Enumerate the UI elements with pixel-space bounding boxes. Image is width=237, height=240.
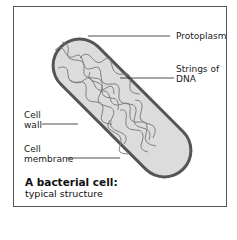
label-cell-membrane-line1: Cell	[24, 144, 41, 154]
caption-subtitle: typical structure	[25, 188, 118, 200]
caption-title: A bacterial cell:	[25, 176, 118, 188]
label-cell-wall-line1: Cell	[24, 110, 41, 120]
label-dna-line2: DNA	[176, 74, 196, 84]
label-dna-line1: Strings of	[176, 64, 219, 74]
label-cell-membrane-line2: membrane	[24, 154, 73, 164]
diagram-caption: A bacterial cell: typical structure	[25, 176, 118, 200]
label-cell-wall-line2: wall	[24, 120, 42, 130]
label-protoplasm: Protoplasm	[176, 31, 227, 41]
